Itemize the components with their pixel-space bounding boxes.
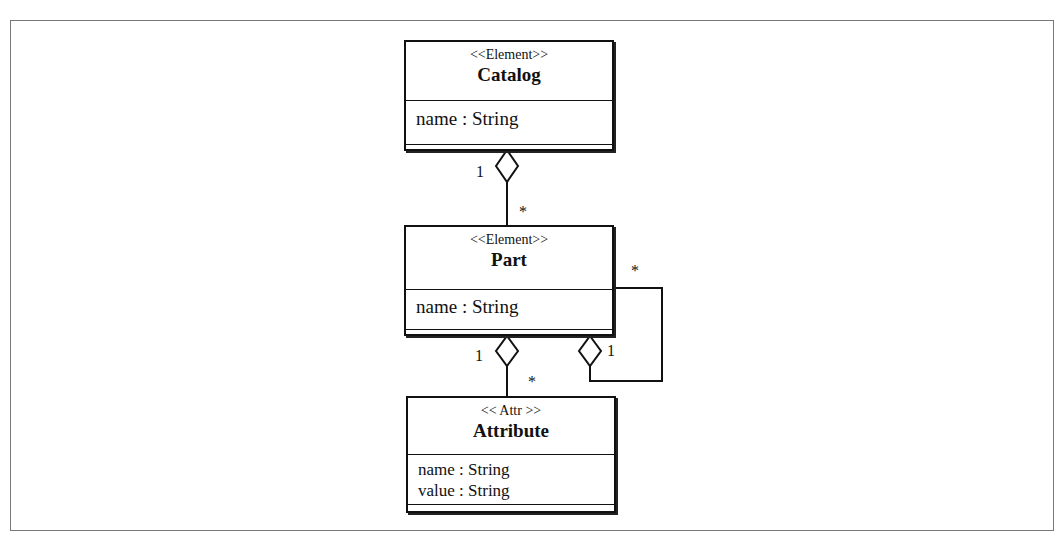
attribute: name : String [418,459,614,480]
stereotype: <<Element>> [406,227,612,248]
multiplicity-label: * [631,262,639,280]
class-part[interactable]: <<Element>> Part name : String [404,225,614,336]
attribute: name : String [416,295,612,319]
operations-compartment [406,330,612,334]
class-name: Catalog [406,63,612,87]
multiplicity-label: * [519,203,527,221]
attribute: value : String [418,480,614,501]
multiplicity-label: * [528,373,536,391]
aggregation-diamond-icon [496,336,518,366]
aggregation-diamond-icon [579,336,601,366]
class-name: Attribute [408,419,614,443]
attribute: name : String [416,107,612,131]
multiplicity-label: 1 [607,342,615,360]
multiplicity-label: 1 [476,163,484,181]
operations-compartment [408,505,614,509]
class-catalog[interactable]: <<Element>> Catalog name : String [404,40,614,151]
aggregation-diamond-icon [496,150,518,182]
class-name: Part [406,248,612,272]
multiplicity-label: 1 [475,347,483,365]
stereotype: << Attr >> [408,398,614,419]
class-attribute[interactable]: << Attr >> Attribute name : String value… [406,396,616,513]
stereotype: <<Element>> [406,42,612,63]
operations-compartment [406,145,612,149]
